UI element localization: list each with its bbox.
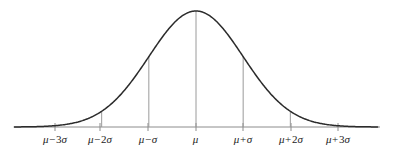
sigma-glyph: σ [152,133,158,145]
tick-label-mu-plus-3sigma: μ+3σ [326,134,350,145]
operator-glyph [198,133,199,145]
mu-glyph: μ [43,133,49,145]
tick-label-mu-minus-sigma: μ−σ [139,134,157,145]
operator-glyph: − [49,133,56,145]
operator-glyph: − [144,133,151,145]
operator-glyph: + [285,133,292,145]
operator-glyph: − [94,133,101,145]
sigma-glyph: σ [247,133,253,145]
tick-label-mu: μ [193,134,200,145]
tick-label-mu-plus-2sigma: μ+2σ [279,134,303,145]
mu-glyph: μ [193,133,199,145]
mu-glyph: μ [279,133,285,145]
operator-glyph: + [332,133,339,145]
sigma-glyph: σ [298,133,304,145]
drop-lines [102,11,291,127]
sigma-glyph: σ [345,133,351,145]
sigma-glyph: σ [62,133,68,145]
bell-curve-plot [0,0,393,152]
sigma-glyph: σ [107,133,113,145]
tick-label-mu-minus-3sigma: μ−3σ [43,134,67,145]
normal-distribution-figure: μ−3σ μ−2σ μ−σ μ μ+σ μ+2σ μ+3σ [0,0,393,152]
mu-glyph: μ [326,133,332,145]
mu-glyph: μ [234,133,240,145]
tick-label-mu-plus-sigma: μ+σ [234,134,252,145]
mu-glyph: μ [139,133,145,145]
mu-glyph: μ [88,133,94,145]
tick-label-mu-minus-2sigma: μ−2σ [88,134,112,145]
operator-glyph: + [239,133,246,145]
